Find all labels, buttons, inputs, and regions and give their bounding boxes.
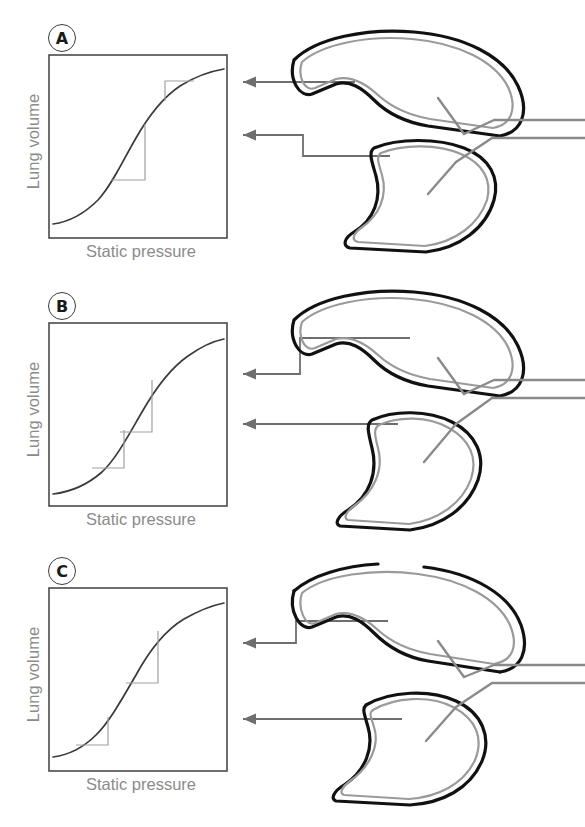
chart-c: Lung volume Static pressure	[18, 587, 233, 802]
compliance-curve-svg-a	[48, 54, 228, 239]
x-axis-label-c: Static pressure	[46, 775, 236, 794]
panel-letter-a: A	[56, 29, 68, 48]
airway-upper-branch-c	[464, 665, 585, 677]
lower-alveolar-unit-inner-a	[354, 146, 489, 246]
airway-lower-branch-a	[456, 138, 585, 162]
plot-area-c	[48, 587, 228, 772]
lung-diagram-a	[278, 8, 585, 276]
airway-lower-branch-b	[456, 398, 585, 424]
panel-letter-badge-b: B	[48, 292, 76, 320]
plot-frame	[49, 323, 227, 506]
panel-letter-badge-a: A	[48, 24, 76, 52]
panel-c: C Lung volume Static pressure	[0, 541, 585, 809]
plot-frame	[49, 588, 227, 771]
arrowhead-lower-c	[243, 714, 256, 725]
y-axis-label-c: Lung volume	[24, 600, 43, 750]
compliance-curve-svg-c	[48, 587, 228, 772]
airway-terminal-lower-a	[428, 162, 456, 194]
plot-frame	[49, 55, 227, 238]
lower-alveolar-unit-outer-c	[333, 693, 486, 805]
arrowhead-upper-b	[243, 369, 256, 380]
pressure-volume-curve	[53, 603, 224, 757]
y-axis-label-a: Lung volume	[24, 67, 43, 217]
airway-terminal-lower-c	[426, 707, 456, 741]
arrowhead-upper-a	[243, 77, 256, 88]
lower-compliance-step-marker	[76, 717, 108, 745]
airway-tree-b	[424, 358, 585, 462]
pressure-volume-curve	[53, 69, 224, 224]
arrowhead-lower-a	[243, 130, 256, 141]
panel-letter-badge-c: C	[48, 557, 76, 585]
airway-terminal-lower-b	[424, 424, 456, 462]
upper-compliance-step-marker	[165, 81, 194, 101]
arrowhead-upper-c	[243, 638, 256, 649]
x-axis-label-a: Static pressure	[46, 242, 236, 261]
lower-alveolar-unit-inner-b	[346, 419, 474, 524]
airway-lower-branch-c	[456, 683, 585, 707]
upper-compliance-step-marker	[126, 631, 158, 683]
chart-b: Lung volume Static pressure	[18, 322, 233, 537]
x-axis-label-b: Static pressure	[46, 510, 236, 529]
chart-a: Lung volume Static pressure	[18, 54, 233, 269]
lower-alveolar-unit-inner-c	[342, 699, 479, 799]
y-axis-label-b: Lung volume	[24, 335, 43, 485]
panel-a: A Lung volume Static pressure	[0, 8, 585, 276]
compliance-curve-svg-b	[48, 322, 228, 507]
plot-area-b	[48, 322, 228, 507]
panel-letter-b: B	[56, 297, 68, 316]
panel-b: B Lung volume Static pressure	[0, 276, 585, 544]
lower-alveolar-unit-outer-b	[337, 413, 481, 530]
lung-diagram-b	[278, 276, 585, 544]
pressure-volume-curve	[53, 339, 224, 494]
plot-area-a	[48, 54, 228, 239]
lung-diagram-c	[278, 541, 585, 809]
lower-alveolar-unit-outer-a	[345, 141, 496, 253]
airway-tree-c	[426, 641, 585, 741]
panel-letter-c: C	[56, 562, 68, 581]
arrowhead-lower-b	[243, 419, 256, 430]
airway-tree-a	[428, 98, 585, 194]
upper-compliance-step-marker	[120, 380, 152, 432]
